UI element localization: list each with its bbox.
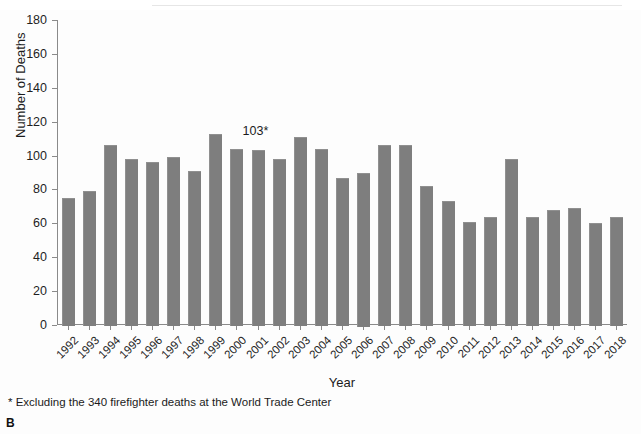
bar-1997 — [167, 157, 180, 326]
bar-2009 — [420, 186, 433, 326]
bar-1992 — [62, 198, 75, 326]
y-axis-title: Number of Deaths — [13, 33, 28, 139]
x-axis-title: Year — [57, 375, 627, 390]
y-tick — [52, 20, 57, 21]
y-tick — [52, 54, 57, 55]
y-tick — [52, 223, 57, 224]
top-scan-artifact — [0, 0, 641, 10]
y-tick-label: 80 — [5, 183, 47, 195]
bar-2011 — [463, 222, 476, 326]
bar-1995 — [125, 159, 138, 326]
y-tick — [52, 122, 57, 123]
bar-1996 — [146, 162, 159, 326]
bar-1993 — [83, 191, 96, 326]
bar-2018 — [610, 217, 623, 326]
y-tick — [52, 88, 57, 89]
bar-2008 — [399, 145, 412, 326]
y-tick — [52, 257, 57, 258]
panel-label: B — [6, 416, 15, 430]
y-tick-label: 20 — [5, 285, 47, 297]
y-tick-label: 100 — [5, 150, 47, 162]
bar-2005 — [336, 178, 349, 326]
footnote-text: * Excluding the 340 firefighter deaths a… — [8, 396, 331, 408]
bar-2006 — [357, 173, 370, 327]
bar-2016 — [568, 208, 581, 326]
bar-2013 — [505, 159, 518, 326]
plot-area: 020406080100120140160180 103* 1992199319… — [57, 20, 627, 325]
bar-2007 — [378, 145, 391, 326]
bar-2012 — [484, 217, 497, 326]
y-tick-label: 40 — [5, 251, 47, 263]
y-axis-line — [57, 20, 58, 325]
figure-panel: 020406080100120140160180 103* 1992199319… — [0, 0, 641, 434]
y-tick — [52, 325, 57, 326]
y-tick — [52, 189, 57, 190]
bar-1999 — [209, 134, 222, 326]
bar-1998 — [188, 171, 201, 326]
bar-2017 — [589, 223, 602, 326]
top-tick-icon — [120, 0, 130, 7]
y-tick — [52, 291, 57, 292]
bar-2003 — [294, 137, 307, 326]
bar-2002 — [273, 159, 286, 326]
top-rule — [152, 5, 622, 6]
y-tick-label: 0 — [5, 319, 47, 331]
bar-2000 — [230, 149, 243, 326]
bar-2015 — [547, 210, 560, 326]
y-tick-label: 60 — [5, 217, 47, 229]
bar-2001 — [252, 150, 265, 326]
bar-2010 — [442, 201, 455, 326]
bar-2014 — [526, 217, 539, 326]
y-tick — [52, 156, 57, 157]
y-tick-label: 180 — [5, 14, 47, 26]
annotation-2001: 103* — [243, 124, 269, 138]
bar-2004 — [315, 149, 328, 326]
bar-1994 — [104, 145, 117, 326]
